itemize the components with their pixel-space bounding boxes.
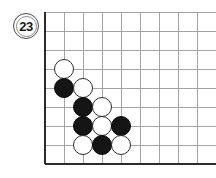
stone-white-d4: [92, 97, 112, 117]
stone-black-c4: [73, 97, 93, 117]
stone-black-e3: [111, 116, 131, 136]
stone-white-d3: [92, 116, 112, 136]
stone-black-b5: [54, 78, 74, 98]
stone-black-d2: [92, 135, 112, 155]
stone-black-c3: [73, 116, 93, 136]
diagram-root: 23: [0, 0, 216, 178]
stone-white-b6: [54, 59, 74, 79]
go-board: [0, 0, 216, 178]
stone-white-c2: [73, 135, 93, 155]
stone-white-e2: [111, 135, 131, 155]
stone-white-c5: [73, 78, 93, 98]
